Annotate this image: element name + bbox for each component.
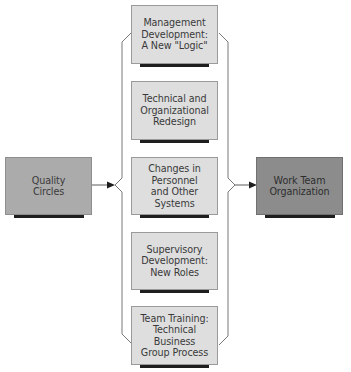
- component-label: Team Training: Technical Business Group …: [140, 313, 208, 359]
- work-team-organization-shadow: [265, 215, 335, 218]
- quality-circles-label: Quality Circles: [32, 175, 66, 198]
- component-box-technical-redesign: Technical and Organizational Redesign: [131, 81, 218, 140]
- right-bracket: [219, 33, 235, 345]
- component-box-supervisory-development: Supervisory Development: New Roles: [131, 232, 218, 290]
- component-box-management-development: Management Development: A New "Logic": [131, 5, 218, 64]
- component-label: Management Development: A New "Logic": [141, 17, 208, 52]
- component-shadow: [140, 140, 209, 143]
- component-box-personnel-systems: Changes in Personnel and Other Systems: [131, 157, 218, 215]
- component-shadow: [140, 365, 209, 368]
- component-label: Changes in Personnel and Other Systems: [148, 163, 201, 209]
- component-shadow: [140, 290, 209, 293]
- quality-circles-box: Quality Circles: [5, 157, 92, 215]
- component-box-team-training: Team Training: Technical Business Group …: [131, 306, 218, 365]
- component-label: Technical and Organizational Redesign: [140, 93, 208, 128]
- component-shadow: [140, 215, 209, 218]
- arrow-in-head: [107, 182, 115, 189]
- work-team-organization-label: Work Team Organization: [269, 175, 329, 198]
- quality-circles-shadow: [14, 215, 84, 218]
- left-bracket: [115, 33, 131, 343]
- component-shadow: [140, 64, 209, 67]
- work-team-organization-box: Work Team Organization: [256, 157, 343, 215]
- component-label: Supervisory Development: New Roles: [141, 244, 208, 279]
